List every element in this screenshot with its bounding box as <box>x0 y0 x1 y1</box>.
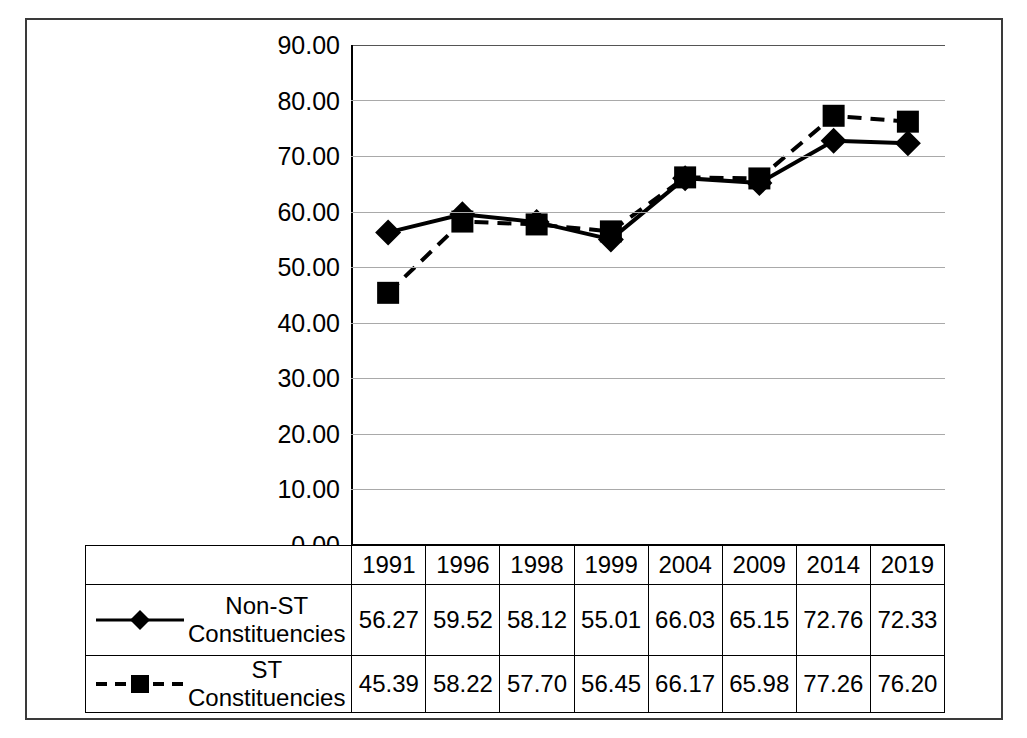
year-header-1999: 1999 <box>574 546 648 585</box>
table-header-row: 1991 1996 1998 1999 2004 2009 2014 2019 <box>86 546 945 585</box>
table-row: Non-ST Constituencies 56.27 59.52 58.12 … <box>86 585 945 656</box>
cell-st-1991: 45.39 <box>352 656 426 713</box>
gridline-60 <box>351 212 945 213</box>
y-tick-50: 50.00 <box>277 255 340 280</box>
non-st-marker-2014 <box>821 128 847 154</box>
series-plot-lines <box>351 45 945 545</box>
y-tick-10: 10.00 <box>277 477 340 502</box>
plot-area <box>351 45 945 545</box>
cell-non-st-2014: 72.76 <box>796 585 870 656</box>
legend-label-st: ST Constituencies <box>188 656 345 712</box>
cell-non-st-1999: 55.01 <box>574 585 648 656</box>
gridline-20 <box>351 434 945 435</box>
cell-st-1998: 57.70 <box>500 656 574 713</box>
cell-non-st-1998: 58.12 <box>500 585 574 656</box>
y-tick-90: 90.00 <box>277 33 340 58</box>
gridline-30 <box>351 378 945 379</box>
legend-label-non-st: Non-ST Constituencies <box>188 592 345 648</box>
st-marker-2019 <box>897 111 919 133</box>
y-tick-40: 40.00 <box>277 311 340 336</box>
cell-non-st-1996: 59.52 <box>426 585 500 656</box>
y-tick-60: 60.00 <box>277 200 340 225</box>
gridline-50 <box>351 267 945 268</box>
y-tick-30: 30.00 <box>277 366 340 391</box>
year-header-1996: 1996 <box>426 546 500 585</box>
year-header-2009: 2009 <box>722 546 796 585</box>
cell-non-st-2004: 66.03 <box>648 585 722 656</box>
table-corner-blank <box>86 546 352 585</box>
st-marker-2014 <box>823 105 845 127</box>
gridline-40 <box>351 323 945 324</box>
st-marker-1991 <box>377 282 399 304</box>
non-st-marker-2019 <box>895 130 921 156</box>
cell-st-2004: 66.17 <box>648 656 722 713</box>
diamond-solid-line-icon <box>92 607 188 633</box>
cell-non-st-2019: 72.33 <box>870 585 944 656</box>
data-table: 1991 1996 1998 1999 2004 2009 2014 2019 <box>85 545 945 713</box>
chart-screenshot: 90.00 80.00 70.00 60.00 50.00 40.00 30.0… <box>0 0 1027 738</box>
y-axis-tick-labels: 90.00 80.00 70.00 60.00 50.00 40.00 30.0… <box>270 0 340 560</box>
year-header-2019: 2019 <box>870 546 944 585</box>
year-header-2014: 2014 <box>796 546 870 585</box>
legend-label-non-st-line1: Non-ST <box>225 592 308 619</box>
year-header-1991: 1991 <box>352 546 426 585</box>
gridline-10 <box>351 489 945 490</box>
legend-entry-non-st: Non-ST Constituencies <box>86 585 352 656</box>
cell-st-1999: 56.45 <box>574 656 648 713</box>
cell-st-2009: 65.98 <box>722 656 796 713</box>
cell-non-st-2009: 65.15 <box>722 585 796 656</box>
gridline-70 <box>351 156 945 157</box>
y-tick-80: 80.00 <box>277 89 340 114</box>
square-dashed-line-icon <box>92 671 188 697</box>
legend-entry-st: ST Constituencies <box>86 656 352 713</box>
y-tick-70: 70.00 <box>277 144 340 169</box>
cell-st-1996: 58.22 <box>426 656 500 713</box>
year-header-2004: 2004 <box>648 546 722 585</box>
table-row: ST Constituencies 45.39 58.22 57.70 56.4… <box>86 656 945 713</box>
chart-figure: 90.00 80.00 70.00 60.00 50.00 40.00 30.0… <box>0 0 1027 738</box>
gridline-80 <box>351 100 945 101</box>
cell-non-st-1991: 56.27 <box>352 585 426 656</box>
cell-st-2014: 77.26 <box>796 656 870 713</box>
legend-label-non-st-line2: Constituencies <box>188 620 345 647</box>
cell-st-2019: 76.20 <box>870 656 944 713</box>
non-st-constituencies-markers <box>375 128 921 253</box>
non-st-marker-1991 <box>375 219 401 245</box>
year-header-1998: 1998 <box>500 546 574 585</box>
y-tick-20: 20.00 <box>277 422 340 447</box>
